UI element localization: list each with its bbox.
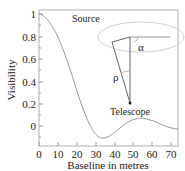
x-ticks: [39, 142, 171, 146]
y-tick-label: 1: [31, 8, 37, 20]
y-tick-label: 0: [31, 120, 37, 132]
figure: 1 0.8 0.6 0.4 0.2 0 0 10 20 30 40 50 60 …: [0, 0, 185, 171]
telescope-point: [129, 102, 132, 105]
y-tick-label: 0.2: [22, 98, 36, 110]
visibility-curve: [39, 14, 178, 138]
y-tick-labels: 1 0.8 0.6 0.4 0.2 0: [22, 8, 36, 132]
source-label: Source: [72, 13, 100, 24]
y-tick-label: 0.4: [22, 76, 36, 88]
x-tick-label: 10: [53, 148, 65, 160]
plot-frame: [39, 10, 178, 146]
y-tick-label: 0.8: [22, 31, 36, 43]
x-tick-label: 70: [166, 148, 178, 160]
x-axis-label: Baseline in metres: [67, 159, 148, 171]
y-axis-label: Visibility: [5, 59, 17, 100]
rho-label: ρ: [113, 71, 119, 83]
short-segment: [112, 37, 130, 42]
telescope-label: Telescope: [110, 106, 150, 117]
y-tick-label: 0.6: [22, 53, 36, 65]
y-ticks: [39, 14, 43, 137]
alpha-label: α: [138, 41, 144, 53]
rho-arc: [121, 71, 130, 73]
x-tick-label: 0: [36, 148, 42, 160]
